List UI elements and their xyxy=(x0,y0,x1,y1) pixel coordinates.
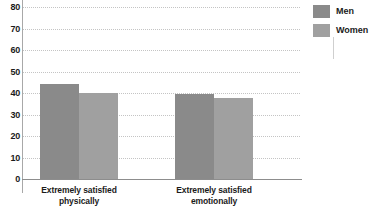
category-label-line: Extremely satisfied xyxy=(19,185,139,196)
legend-label: Women xyxy=(336,25,368,35)
category-label-line: emotionally xyxy=(154,196,274,207)
y-axis-ticks: 80 70 60 50 40 30 20 10 0 xyxy=(0,0,20,213)
women-swatch-icon xyxy=(313,24,330,37)
bar-chart: 80 70 60 50 40 30 20 10 0 Extremely sati… xyxy=(0,0,373,213)
bar-women-physically[interactable] xyxy=(79,93,118,179)
legend: Men Women xyxy=(313,3,373,41)
bars-layer xyxy=(23,7,300,179)
x-axis-line xyxy=(22,179,302,180)
y-tick-label: 40 xyxy=(0,89,20,98)
y-tick-label: 30 xyxy=(0,111,20,120)
y-tick-label: 0 xyxy=(0,175,20,184)
bar-men-emotionally[interactable] xyxy=(175,94,214,179)
bar-women-emotionally[interactable] xyxy=(214,98,253,179)
y-tick-label: 50 xyxy=(0,68,20,77)
legend-item-women[interactable]: Women xyxy=(313,22,373,38)
y-tick-label: 70 xyxy=(0,25,20,34)
y-tick-label: 80 xyxy=(0,3,20,12)
y-tick-label: 10 xyxy=(0,154,20,163)
category-label-line: physically xyxy=(19,196,139,207)
category-label-physically: Extremely satisfied physically xyxy=(19,185,139,207)
legend-item-men[interactable]: Men xyxy=(313,3,373,19)
category-label-emotionally: Extremely satisfied emotionally xyxy=(154,185,274,207)
men-swatch-icon xyxy=(313,5,330,18)
bar-men-physically[interactable] xyxy=(40,84,79,179)
legend-stem-divider xyxy=(333,37,334,59)
y-tick-label: 20 xyxy=(0,132,20,141)
category-label-line: Extremely satisfied xyxy=(154,185,274,196)
y-tick-label: 60 xyxy=(0,46,20,55)
legend-label: Men xyxy=(336,6,354,16)
